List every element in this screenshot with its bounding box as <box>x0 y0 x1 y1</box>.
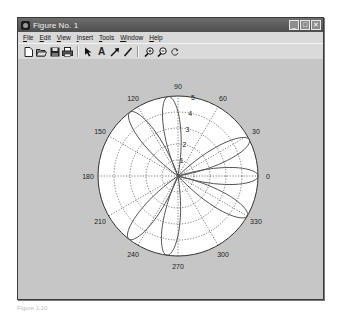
rotate-3d-button[interactable] <box>169 46 180 57</box>
svg-text:210: 210 <box>94 218 106 225</box>
open-folder-icon <box>36 47 47 57</box>
svg-text:150: 150 <box>94 128 106 135</box>
svg-text:180: 180 <box>82 173 94 180</box>
svg-text:30: 30 <box>252 128 260 135</box>
menu-insert[interactable]: Insert <box>77 34 93 41</box>
rotate-icon <box>170 47 180 57</box>
menu-file[interactable]: File <box>23 34 34 41</box>
svg-text:5: 5 <box>191 94 195 101</box>
svg-text:2: 2 <box>183 141 187 148</box>
svg-text:4: 4 <box>188 110 192 117</box>
print-button[interactable] <box>62 46 73 57</box>
window-title: Figure No. 1 <box>33 21 78 30</box>
maximize-button[interactable]: □ <box>300 20 310 30</box>
save-button[interactable] <box>49 46 60 57</box>
edit-plot-button[interactable] <box>83 46 94 57</box>
svg-text:3: 3 <box>185 126 189 133</box>
figure-canvas[interactable]: 030609012015018021024027030033012345 <box>18 59 323 299</box>
figure-toolbar: A <box>18 43 323 60</box>
svg-text:60: 60 <box>219 95 227 102</box>
line-icon <box>123 47 133 57</box>
print-icon <box>62 47 73 57</box>
new-figure-button[interactable] <box>23 46 34 57</box>
insert-line-button[interactable] <box>122 46 133 57</box>
title-bar[interactable]: Figure No. 1 _ □ ✕ <box>18 18 323 32</box>
svg-text:1: 1 <box>180 157 184 164</box>
arrow-icon <box>110 47 120 57</box>
menu-tools[interactable]: Tools <box>99 34 114 41</box>
insert-arrow-button[interactable] <box>109 46 120 57</box>
open-file-button[interactable] <box>36 46 47 57</box>
menu-help[interactable]: Help <box>149 34 162 41</box>
menu-window[interactable]: Window <box>120 34 143 41</box>
toolbar-separator <box>137 46 139 57</box>
menu-bar: File Edit View Insert Tools Window Help <box>18 32 323 43</box>
minimize-button[interactable]: _ <box>289 20 299 30</box>
save-icon <box>50 47 60 57</box>
close-button[interactable]: ✕ <box>311 20 321 30</box>
svg-text:240: 240 <box>127 251 139 258</box>
svg-text:270: 270 <box>172 263 184 270</box>
zoom-out-icon <box>157 47 167 57</box>
pointer-arrow-icon <box>84 47 93 57</box>
svg-text:300: 300 <box>217 251 229 258</box>
text-icon: A <box>98 46 105 57</box>
figure-window: Figure No. 1 _ □ ✕ File Edit View Insert… <box>17 17 324 300</box>
zoom-out-button[interactable] <box>156 46 167 57</box>
menu-view[interactable]: View <box>57 34 71 41</box>
new-file-icon <box>24 47 33 57</box>
polar-plot[interactable]: 030609012015018021024027030033012345 <box>18 59 323 299</box>
zoom-in-icon <box>144 47 154 57</box>
svg-text:330: 330 <box>250 218 262 225</box>
figure-caption: Figure 1.10 <box>17 305 47 311</box>
matlab-app-icon <box>21 21 30 30</box>
menu-edit[interactable]: Edit <box>40 34 51 41</box>
toolbar-separator <box>77 46 79 57</box>
svg-text:120: 120 <box>127 95 139 102</box>
svg-text:0: 0 <box>266 173 270 180</box>
zoom-in-button[interactable] <box>143 46 154 57</box>
svg-text:90: 90 <box>174 83 182 90</box>
insert-text-button[interactable]: A <box>96 46 107 57</box>
